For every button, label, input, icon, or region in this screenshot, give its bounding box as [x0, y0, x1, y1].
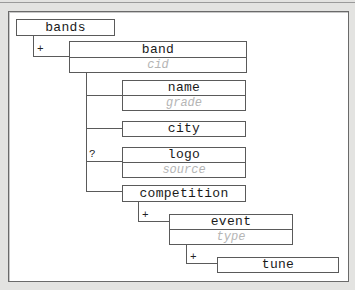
node-label: city: [123, 122, 245, 136]
node-attribute: cid: [70, 57, 246, 74]
node-label: event: [170, 215, 292, 229]
node-label: tune: [218, 258, 338, 272]
cardinality-marker-logo: ?: [89, 149, 96, 160]
node-attribute: source: [123, 162, 245, 179]
connector-line: [138, 201, 139, 222]
node-city: city: [122, 121, 246, 137]
node-attribute: grade: [123, 95, 245, 112]
node-attribute: type: [170, 229, 292, 246]
connector-line: [86, 95, 122, 96]
connector-line: [138, 221, 170, 222]
node-band: band cid: [69, 41, 247, 73]
connector-line: [86, 128, 122, 129]
cardinality-marker-event: +: [142, 210, 149, 221]
node-logo: logo source: [122, 147, 246, 178]
node-label: logo: [123, 148, 245, 162]
node-label: competition: [123, 186, 245, 201]
connector-line: [86, 191, 122, 192]
node-tune: tune: [217, 257, 339, 273]
connector-line: [33, 35, 34, 57]
node-label: band: [70, 42, 246, 57]
top-edge-line: [0, 2, 355, 3]
node-event: event type: [169, 214, 293, 245]
cardinality-marker-band: +: [37, 44, 44, 55]
connector-line: [86, 72, 87, 192]
node-name: name grade: [122, 80, 246, 111]
node-bands: bands: [16, 19, 115, 36]
connector-line: [33, 56, 70, 57]
connector-line: [86, 161, 122, 162]
connector-line: [186, 244, 187, 264]
node-label: bands: [17, 20, 114, 37]
cardinality-marker-tune: +: [190, 252, 197, 263]
connector-line: [186, 263, 218, 264]
node-label: name: [123, 81, 245, 95]
node-competition: competition: [122, 185, 246, 202]
